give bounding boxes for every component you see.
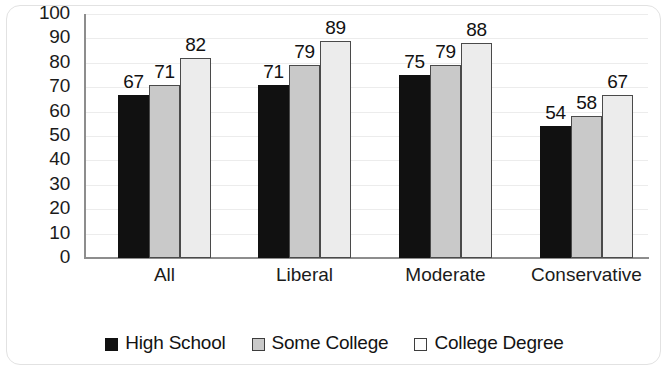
bar-value-label: 89 (313, 17, 359, 39)
gridline-100 (84, 14, 648, 15)
bar-conservative-some-college (571, 116, 602, 258)
y-tick-label-20: 20 (22, 197, 70, 219)
legend-swatch-some-college-icon (252, 338, 265, 351)
y-tick-label-100: 100 (22, 2, 70, 24)
y-tick-label-90: 90 (22, 26, 70, 48)
category-label-all: All (85, 264, 245, 286)
bar-value-label: 67 (595, 71, 641, 93)
y-tick-label-80: 80 (22, 51, 70, 73)
y-tick-label-70: 70 (22, 75, 70, 97)
legend-swatch-high-school-icon (105, 338, 118, 351)
y-tick-label-0: 0 (22, 246, 70, 268)
y-tick-label-40: 40 (22, 148, 70, 170)
legend-swatch-college-degree-icon (414, 338, 427, 351)
legend-item-high-school[interactable]: High School (105, 332, 225, 354)
bar-all-high-school (118, 95, 149, 258)
y-tick-label-30: 30 (22, 173, 70, 195)
legend-label: High School (125, 332, 225, 354)
bar-value-label: 82 (173, 34, 219, 56)
category-label-liberal: Liberal (225, 264, 385, 286)
bar-liberal-college-degree (320, 41, 351, 258)
legend-label: Some College (272, 332, 389, 354)
bar-chart: 1009080706050403020100 67718271798975798… (0, 0, 669, 375)
bar-liberal-high-school (258, 85, 289, 258)
legend-item-college-degree[interactable]: College Degree (414, 332, 563, 354)
bar-conservative-high-school (540, 126, 571, 258)
bar-moderate-high-school (399, 75, 430, 258)
bar-all-some-college (149, 85, 180, 258)
bar-moderate-college-degree (461, 43, 492, 258)
bar-value-label: 88 (454, 19, 500, 41)
legend-label: College Degree (434, 332, 563, 354)
bar-moderate-some-college (430, 65, 461, 258)
bar-all-college-degree (180, 58, 211, 258)
category-label-conservative: Conservative (507, 264, 667, 286)
y-tick-label-60: 60 (22, 100, 70, 122)
y-tick-label-50: 50 (22, 124, 70, 146)
y-axis-line (84, 14, 86, 259)
chart-legend: High SchoolSome CollegeCollege Degree (0, 332, 669, 354)
y-tick-label-10: 10 (22, 222, 70, 244)
category-label-moderate: Moderate (366, 264, 526, 286)
gridline-90 (84, 38, 648, 39)
legend-item-some-college[interactable]: Some College (252, 332, 389, 354)
bar-liberal-some-college (289, 65, 320, 258)
bar-conservative-college-degree (602, 95, 633, 258)
